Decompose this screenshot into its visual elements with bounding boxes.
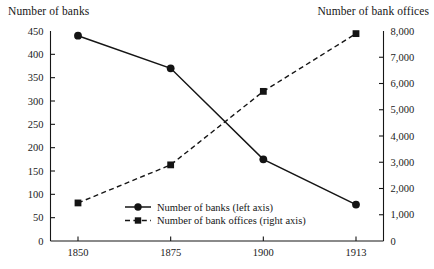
circle-marker	[74, 32, 82, 40]
circle-marker	[167, 64, 175, 72]
right-axis-tick-label: 5,000	[391, 104, 415, 115]
x-axis-ticks: 1850187519001913	[68, 237, 367, 259]
chart-plot-area: 050100150200250300350400450 01,0002,0003…	[0, 0, 434, 269]
left-axis-tick-label: 200	[28, 142, 44, 153]
circle-marker	[352, 201, 360, 209]
x-axis-tick-label: 1913	[346, 247, 367, 258]
chart-figure: Number of banks Number of bank offices 0…	[0, 0, 434, 269]
left-axis-tick-label: 0	[38, 236, 43, 247]
right-axis-tick-label: 2,000	[391, 183, 415, 194]
series-line-1	[78, 36, 356, 205]
square-marker	[353, 30, 360, 37]
right-axis-tick-label: 0	[391, 236, 396, 247]
right-axis-ticks: 01,0002,0003,0004,0005,0006,0007,0008,00…	[379, 26, 414, 247]
left-axis-tick-label: 50	[33, 212, 44, 223]
square-marker	[75, 200, 82, 207]
left-axis-tick-label: 400	[28, 49, 44, 60]
x-axis-tick-label: 1900	[253, 247, 274, 258]
square-marker	[167, 161, 174, 168]
left-axis-tick-label: 450	[28, 26, 44, 37]
left-axis-tick-label: 100	[28, 189, 44, 200]
left-axis-tick-label: 300	[28, 96, 44, 107]
right-axis-tick-label: 1,000	[391, 209, 415, 220]
legend-square-marker	[135, 217, 141, 223]
legend-item-label: Number of banks (left axis)	[157, 202, 274, 214]
left-axis-tick-label: 350	[28, 72, 44, 83]
x-axis-tick-label: 1875	[160, 247, 181, 258]
x-axis-tick-label: 1850	[68, 247, 89, 258]
series-line-2	[78, 34, 356, 203]
circle-marker	[259, 155, 267, 163]
square-marker	[260, 88, 267, 95]
right-axis-tick-label: 8,000	[391, 26, 415, 37]
chart-legend: Number of banks (left axis)Number of ban…	[125, 202, 306, 228]
legend-circle-marker	[134, 203, 141, 210]
right-axis-tick-label: 3,000	[391, 157, 415, 168]
right-axis-tick-label: 4,000	[391, 131, 415, 142]
right-axis-tick-label: 6,000	[391, 78, 415, 89]
legend-item-label: Number of bank offices (right axis)	[157, 215, 306, 227]
right-axis-tick-label: 7,000	[391, 52, 415, 63]
data-series-group	[74, 30, 360, 208]
left-axis-tick-label: 250	[28, 119, 44, 130]
left-axis-tick-label: 150	[28, 166, 44, 177]
